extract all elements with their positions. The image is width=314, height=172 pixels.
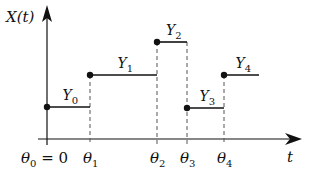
- tick-label-theta3: θ3: [180, 149, 195, 169]
- point-dot-icon: [221, 72, 227, 78]
- tick-label-theta2: θ2: [150, 149, 165, 169]
- x-axis: [38, 133, 302, 145]
- point-dot-icon: [154, 39, 160, 45]
- segment-label: Y4: [236, 55, 252, 74]
- segment-Y0: Y0: [44, 87, 90, 110]
- tick-label-theta1: θ1: [83, 149, 98, 169]
- segment-Y3: Y3: [184, 88, 224, 111]
- segment-Y4: Y4: [221, 55, 259, 78]
- segment-label: Y2: [166, 22, 182, 41]
- point-dot-icon: [184, 105, 190, 111]
- segment-Y2: Y2: [154, 22, 187, 45]
- segment-label: Y0: [63, 87, 79, 106]
- segment-label: Y3: [200, 88, 216, 107]
- x-axis-label: t: [287, 148, 294, 166]
- tick-label-theta4: θ4: [217, 149, 232, 169]
- step-function-diagram: Y0Y1Y2Y3Y4 θ0 = 0θ1θ2θ3θ4 X(t) t: [0, 0, 314, 172]
- point-dot-icon: [44, 104, 50, 110]
- y-axis-label: X(t): [5, 8, 35, 26]
- tick-labels: θ0 = 0θ1θ2θ3θ4: [21, 149, 232, 169]
- y-axis: [42, 5, 52, 145]
- segment-label: Y1: [118, 55, 134, 74]
- point-dot-icon: [87, 72, 93, 78]
- tick-label-theta0: θ0 = 0: [21, 149, 68, 169]
- segment-Y1: Y1: [87, 55, 157, 78]
- step-segments: Y0Y1Y2Y3Y4: [44, 22, 259, 111]
